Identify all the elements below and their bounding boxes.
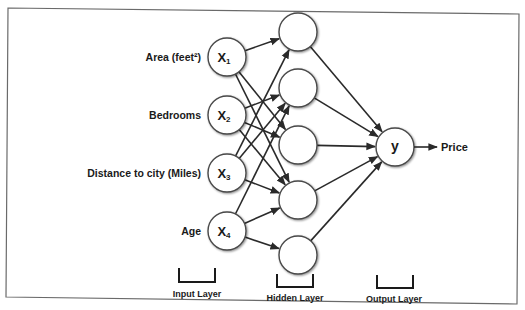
neural-network-diagram: X1Area (feet²)X2BedroomsX3Distance to ci… — [0, 0, 525, 310]
hidden-layer-caption: Hidden Layer — [266, 293, 324, 303]
output-layer-caption: Output Layer — [366, 294, 423, 304]
output-node-symbol-y: y — [391, 138, 399, 154]
input-label-x1: Area (feet²) — [146, 51, 201, 63]
diagram-frame — [6, 8, 519, 304]
input-label-x2: Bedrooms — [149, 109, 201, 121]
hidden-node-h4 — [279, 181, 317, 219]
hidden-node-h2 — [279, 69, 317, 107]
hidden-node-h3 — [279, 126, 317, 164]
input-label-x4: Age — [181, 225, 201, 237]
hidden-node-h1 — [279, 13, 317, 51]
output-label-price: Price — [441, 141, 468, 153]
input-label-x3: Distance to city (Miles) — [87, 167, 201, 179]
hidden-node-h5 — [279, 236, 317, 274]
input-layer-caption: Input Layer — [173, 289, 222, 299]
